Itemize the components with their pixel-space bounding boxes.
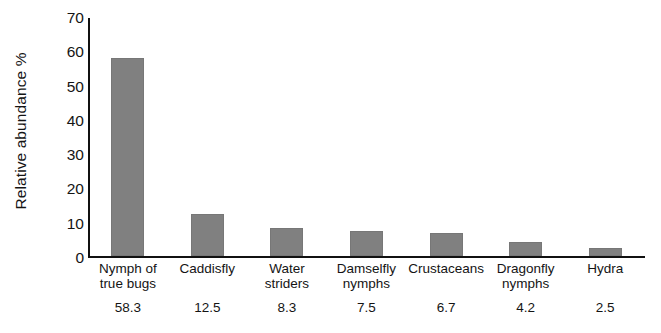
bar[interactable] — [191, 214, 224, 257]
x-axis-category-label: Hydra — [565, 262, 645, 277]
bar-value-label: 4.2 — [486, 300, 566, 315]
x-axis-category-label: Crustaceans — [406, 262, 486, 277]
x-axis-category-label: Caddisfly — [168, 262, 248, 277]
bar[interactable] — [509, 242, 542, 256]
x-axis-category-label: Water striders — [247, 262, 327, 291]
bar-value-label: 7.5 — [327, 300, 407, 315]
x-axis-category-label: Damselfly nymphs — [327, 262, 407, 291]
bar-value-label: 8.3 — [247, 300, 327, 315]
bar[interactable] — [589, 248, 622, 257]
bar-value-label: 2.5 — [565, 300, 645, 315]
y-axis-title: Relative abundance % — [6, 0, 36, 262]
bar-slot — [327, 18, 407, 256]
x-axis-labels-layer: Nymph of true bugs58.3Caddisfly12.5Water… — [88, 262, 645, 333]
x-axis-category: Hydra2.5 — [565, 262, 645, 277]
x-axis-category-label: Dragonfly nymphs — [486, 262, 566, 291]
x-axis-category: Crustaceans6.7 — [406, 262, 486, 277]
bar-slot — [88, 18, 168, 256]
x-axis-category-label: Nymph of true bugs — [88, 262, 168, 291]
x-axis-category: Water striders8.3 — [247, 262, 327, 291]
y-tick-label: 30 — [67, 147, 84, 163]
bar-value-label: 6.7 — [406, 300, 486, 315]
y-tick-label: 20 — [67, 182, 84, 198]
bar[interactable] — [111, 58, 144, 256]
x-axis-category: Damselfly nymphs7.5 — [327, 262, 407, 291]
y-axis-title-text: Relative abundance % — [12, 52, 30, 209]
x-axis-line — [88, 256, 645, 258]
bar-value-label: 12.5 — [168, 300, 248, 315]
y-tick-label: 0 — [75, 250, 84, 266]
plot-area — [88, 18, 645, 258]
bar-slot — [565, 18, 645, 256]
y-axis-tick-labels: 010203040506070 — [48, 18, 84, 258]
bar-value-label: 58.3 — [88, 300, 168, 315]
x-axis-category: Dragonfly nymphs4.2 — [486, 262, 566, 291]
bar[interactable] — [430, 233, 463, 256]
bar-slot — [486, 18, 566, 256]
bar[interactable] — [270, 228, 303, 256]
bars-layer — [88, 18, 645, 256]
bar-chart: Relative abundance % 010203040506070 Nym… — [0, 0, 661, 333]
y-tick-label: 50 — [67, 79, 84, 95]
y-tick-label: 70 — [67, 10, 84, 26]
y-tick-label: 60 — [67, 45, 84, 61]
bar[interactable] — [350, 231, 383, 257]
x-axis-category: Caddisfly12.5 — [168, 262, 248, 277]
bar-slot — [406, 18, 486, 256]
y-tick-label: 40 — [67, 113, 84, 129]
bar-slot — [168, 18, 248, 256]
y-tick-label: 10 — [67, 216, 84, 232]
bar-slot — [247, 18, 327, 256]
x-axis-category: Nymph of true bugs58.3 — [88, 262, 168, 291]
